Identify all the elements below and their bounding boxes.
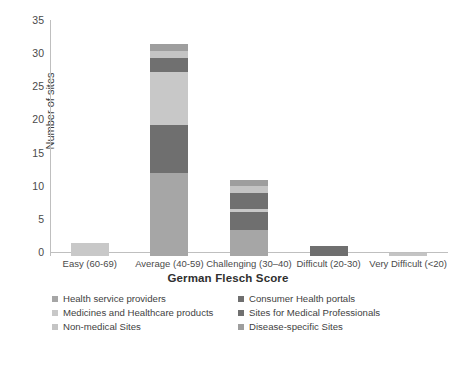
bar-segment[interactable]: [230, 186, 268, 193]
bar-segment[interactable]: [150, 72, 188, 126]
legend-item[interactable]: Disease-specific Sites: [238, 321, 412, 332]
legend-label: Non-medical Sites: [63, 321, 141, 332]
legend-item[interactable]: Non-medical Sites: [52, 321, 238, 332]
bar-segment[interactable]: [150, 51, 188, 58]
chart-legend: Health service providersConsumer Health …: [52, 293, 412, 332]
legend-swatch-icon: [238, 296, 244, 302]
bar-segment[interactable]: [310, 246, 348, 256]
legend-item[interactable]: Health service providers: [52, 293, 238, 304]
y-tick-label: 35: [0, 14, 44, 26]
y-tick-label: 25: [0, 80, 44, 92]
y-tick-label: 10: [0, 180, 44, 192]
bar-segment[interactable]: [230, 193, 268, 209]
bar-segment[interactable]: [150, 173, 188, 256]
plot-area: [50, 20, 448, 256]
y-tick-label: 30: [0, 47, 44, 59]
bar-stack[interactable]: [71, 243, 109, 256]
bar-segment[interactable]: [150, 125, 188, 173]
legend-label: Medicines and Healthcare products: [63, 307, 213, 318]
legend-label: Sites for Medical Professionals: [249, 307, 380, 318]
legend-item[interactable]: Sites for Medical Professionals: [238, 307, 412, 318]
legend-swatch-icon: [238, 324, 244, 330]
y-tick-label: 5: [0, 213, 44, 225]
bar-stack[interactable]: [310, 246, 348, 256]
legend-item[interactable]: Consumer Health portals: [238, 293, 412, 304]
chart-figure: Number of sites 05101520253035 Easy (60-…: [0, 0, 456, 380]
legend-swatch-icon: [52, 310, 58, 316]
legend-label: Consumer Health portals: [249, 293, 355, 304]
bar-segment[interactable]: [71, 243, 109, 256]
legend-label: Health service providers: [63, 293, 166, 304]
bar-stack[interactable]: [389, 253, 427, 256]
y-tick-label: 0: [0, 246, 44, 258]
x-tick-label: Very Difficult (<20): [353, 258, 456, 269]
bar-segment[interactable]: [230, 230, 268, 257]
y-tick-label: 20: [0, 113, 44, 125]
bar-segment[interactable]: [230, 212, 268, 229]
bar-segment[interactable]: [150, 44, 188, 51]
bar-stack[interactable]: [150, 44, 188, 256]
bar-stack[interactable]: [230, 180, 268, 256]
bar-segment[interactable]: [150, 58, 188, 72]
y-tick-label: 15: [0, 147, 44, 159]
legend-swatch-icon: [52, 296, 58, 302]
legend-label: Disease-specific Sites: [249, 321, 343, 332]
legend-swatch-icon: [238, 310, 244, 316]
legend-swatch-icon: [52, 324, 58, 330]
bar-segment[interactable]: [389, 253, 427, 256]
x-axis-title: German Flesch Score: [0, 272, 456, 284]
bar-segment[interactable]: [230, 180, 268, 187]
legend-item[interactable]: Medicines and Healthcare products: [52, 307, 238, 318]
